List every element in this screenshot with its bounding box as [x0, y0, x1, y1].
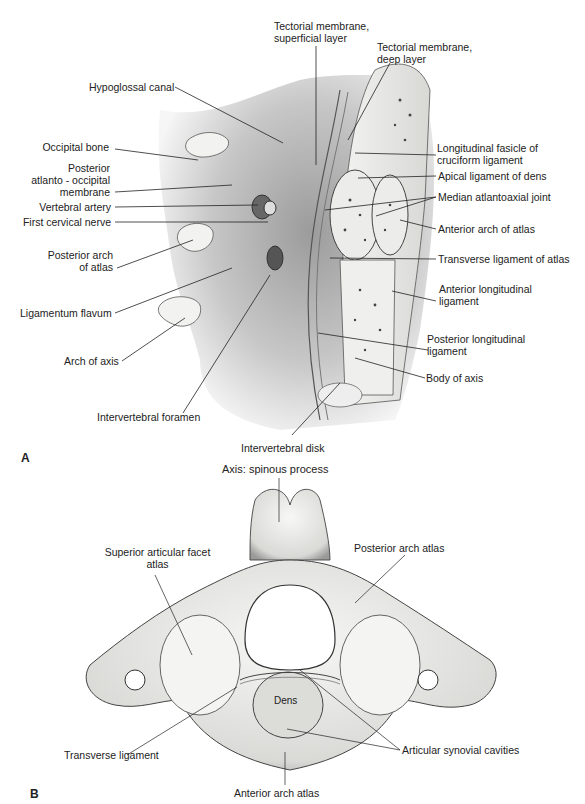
label-line: ligament — [439, 295, 532, 307]
label-articular-synovial-cavities: Articular synovial cavities — [402, 744, 519, 756]
label-line: Anterior longitudinal — [439, 283, 532, 295]
label-line: superficial layer — [274, 32, 369, 44]
label-line: Superior articular facet — [90, 546, 225, 558]
label-line: Tectorial membrane, — [274, 20, 369, 32]
label-median-atlantoaxial-joint: Median atlantoaxial joint — [438, 191, 551, 203]
label-vertebral-artery: Vertebral artery — [39, 201, 111, 213]
label-line: deep layer — [377, 53, 472, 65]
label-line: membrane — [31, 186, 110, 198]
label-anterior-longitudinal-ligament: Anterior longitudinal ligament — [439, 283, 532, 307]
label-anterior-arch-atlas: Anterior arch atlas — [234, 787, 319, 799]
label-anterior-arch-of-atlas: Anterior arch of atlas — [438, 223, 535, 235]
label-line: of atlas — [48, 261, 113, 273]
label-posterior-longitudinal-ligament: Posterior longitudinal ligament — [427, 333, 525, 357]
label-transverse-ligament: Transverse ligament — [64, 749, 159, 761]
label-intervertebral-foramen: Intervertebral foramen — [97, 411, 200, 423]
label-line: Posterior arch — [48, 249, 113, 261]
panel-label-a: A — [21, 451, 30, 465]
label-axis-spinous-process: Axis: spinous process — [222, 463, 328, 475]
label-posterior-arch-atlas: Posterior arch atlas — [354, 542, 444, 554]
label-occipital-bone: Occipital bone — [42, 141, 109, 153]
label-apical-ligament: Apical ligament of dens — [438, 170, 547, 182]
label-longitudinal-fasicle: Longitudinal fasicle of cruciform ligame… — [437, 142, 538, 166]
panel-a-art — [158, 64, 434, 430]
label-intervertebral-disk: Intervertebral disk — [241, 442, 324, 454]
label-line: Longitudinal fasicle of — [437, 142, 538, 154]
panel-label-b: B — [30, 787, 39, 801]
panel-b-art — [86, 489, 496, 770]
label-body-of-axis: Body of axis — [426, 372, 483, 384]
label-posterior-atlanto-occipital-membrane: Posterior atlanto - occipital membrane — [31, 162, 110, 198]
label-line: Posterior longitudinal — [427, 333, 525, 345]
label-superior-articular-facet-atlas: Superior articular facet atlas — [90, 546, 225, 570]
label-dens: Dens — [274, 695, 297, 707]
label-line: atlanto - occipital — [31, 174, 110, 186]
label-tectorial-superficial: Tectorial membrane, superficial layer — [274, 20, 369, 44]
label-hypoglossal-canal: Hypoglossal canal — [89, 81, 174, 93]
label-transverse-ligament-of-atlas: Transverse ligament of atlas — [438, 253, 570, 265]
label-line: atlas — [90, 558, 225, 570]
label-ligamentum-flavum: Ligamentum flavum — [20, 307, 112, 319]
label-line: Posterior — [31, 162, 110, 174]
label-line: cruciform ligament — [437, 154, 538, 166]
label-tectorial-deep: Tectorial membrane, deep layer — [377, 41, 472, 65]
label-line: Tectorial membrane, — [377, 41, 472, 53]
label-line: ligament — [427, 345, 525, 357]
anatomy-illustration — [0, 0, 585, 804]
label-arch-of-axis: Arch of axis — [64, 355, 119, 367]
label-posterior-arch-of-atlas: Posterior arch of atlas — [48, 249, 113, 273]
label-first-cervical-nerve: First cervical nerve — [23, 216, 111, 228]
